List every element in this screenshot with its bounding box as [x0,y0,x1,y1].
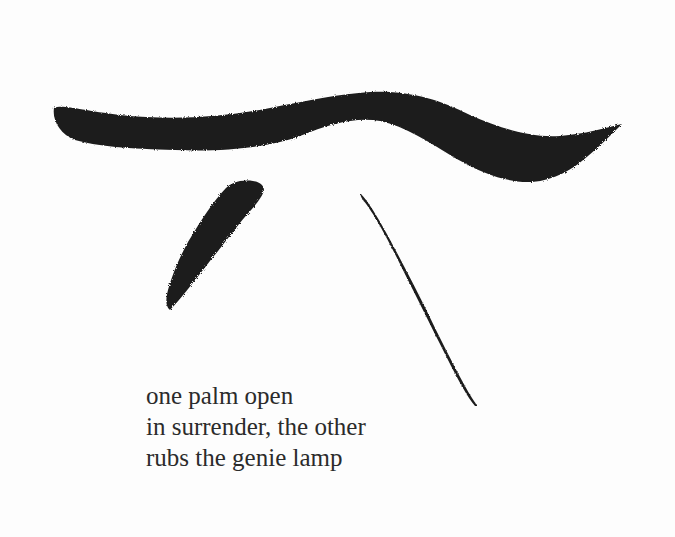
poem-line-3: rubs the genie lamp [146,442,366,473]
left-diagonal-stroke [166,180,264,310]
haiku-poem: one palm open in surrender, the other ru… [146,380,366,473]
right-diagonal-stroke [361,194,477,406]
poem-line-2: in surrender, the other [146,411,366,442]
horizontal-wave-stroke [54,92,622,182]
poem-line-1: one palm open [146,380,366,411]
